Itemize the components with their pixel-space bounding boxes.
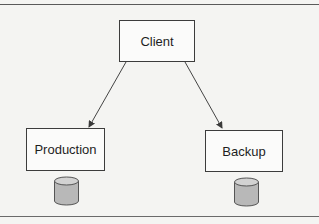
diagram-canvas: Client Production Backup — [0, 0, 319, 224]
backup-database-cylinder-icon — [233, 177, 260, 208]
production-label: Production — [34, 142, 96, 157]
production-node: Production — [26, 128, 105, 171]
backup-label: Backup — [222, 144, 265, 159]
production-database-cylinder-icon — [53, 176, 80, 207]
client-node: Client — [119, 20, 195, 62]
backup-node: Backup — [205, 130, 283, 172]
edge-client-to-production — [89, 62, 126, 127]
edge-client-to-backup — [185, 62, 222, 128]
client-label: Client — [140, 34, 173, 49]
